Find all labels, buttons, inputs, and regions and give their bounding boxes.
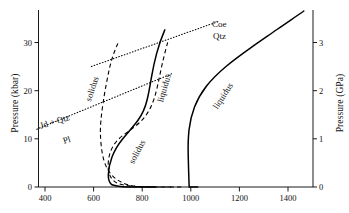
left-tick-label-30: 30 bbox=[14, 38, 32, 48]
right-tick-label-1: 1 bbox=[319, 134, 333, 144]
right-axis-ticks bbox=[313, 43, 317, 188]
curve-solidus-dry bbox=[108, 30, 165, 187]
right-axis-title: Pressure (GPa) bbox=[335, 58, 345, 148]
left-tick-label-20: 20 bbox=[14, 86, 32, 96]
right-tick-label-0: 0 bbox=[319, 182, 333, 192]
curve-liquidus-dry bbox=[188, 11, 304, 187]
phase-diagram-figure: Pressure (kbar) Pressure (GPa) 0 10 20 3… bbox=[0, 0, 349, 213]
bottom-tick-label-1200: 1200 bbox=[231, 193, 248, 203]
right-tick-label-3: 3 bbox=[319, 38, 333, 48]
bottom-tick-label-1000: 1000 bbox=[182, 193, 199, 203]
right-tick-label-2: 2 bbox=[319, 86, 333, 96]
left-axis-ticks bbox=[35, 43, 39, 188]
plot-canvas bbox=[0, 0, 349, 213]
curve-liquidus-wet bbox=[108, 42, 184, 187]
bottom-tick-label-1400: 1400 bbox=[280, 193, 297, 203]
annotation-qtz: Qtz bbox=[213, 31, 226, 41]
left-tick-label-10: 10 bbox=[14, 134, 32, 144]
bottom-tick-label-600: 600 bbox=[87, 193, 100, 203]
left-tick-label-0: 0 bbox=[14, 182, 32, 192]
annotation-coe: Coe bbox=[212, 19, 227, 29]
bottom-tick-label-800: 800 bbox=[136, 193, 149, 203]
bottom-axis-ticks bbox=[45, 187, 288, 192]
bottom-tick-label-400: 400 bbox=[39, 193, 52, 203]
